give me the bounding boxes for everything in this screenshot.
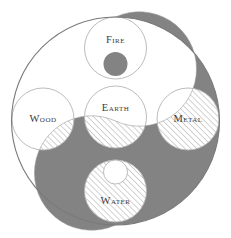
water-light-dot xyxy=(104,160,128,184)
label-water: Water xyxy=(101,195,131,206)
five-elements-yin-yang-diagram: Fire Wood Earth Metal Water xyxy=(0,0,231,238)
label-wood: Wood xyxy=(29,113,56,124)
fire-dark-dot xyxy=(104,52,128,76)
label-earth: Earth xyxy=(102,102,130,113)
label-fire: Fire xyxy=(106,34,125,45)
label-metal: Metal xyxy=(173,113,202,124)
